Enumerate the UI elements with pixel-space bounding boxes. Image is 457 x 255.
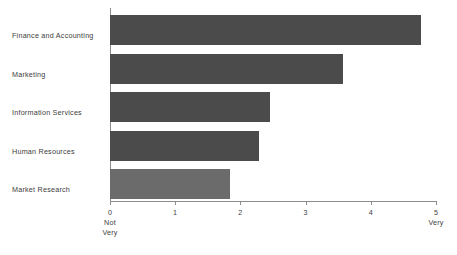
bar-chart: Finance and Accounting Marketing Informa… <box>0 0 457 255</box>
axis-anchor-low-line1: Not <box>104 218 116 227</box>
category-label: Market Research <box>0 185 100 195</box>
x-tick-label: 1 <box>160 208 190 217</box>
bar-finance-and-accounting <box>110 15 421 45</box>
x-tick-label: 3 <box>291 208 321 217</box>
x-tick-mark <box>175 201 176 205</box>
axis-anchor-low: Not Very <box>90 218 130 237</box>
x-tick-mark <box>436 201 437 205</box>
x-tick-label: 4 <box>356 208 386 217</box>
bar-market-research <box>110 169 230 199</box>
x-tick-label: 5 <box>421 208 451 217</box>
axis-anchor-high: Very <box>416 218 456 228</box>
bar-human-resources <box>110 131 259 161</box>
value-axis-line <box>110 201 437 202</box>
category-label: Human Resources <box>0 147 100 157</box>
x-tick-mark <box>110 201 111 205</box>
x-tick-label: 0 <box>95 208 125 217</box>
category-label: Finance and Accounting <box>0 31 100 41</box>
axis-anchor-low-line2: Very <box>102 228 117 237</box>
x-tick-mark <box>240 201 241 205</box>
axis-anchor-high-label: Very <box>428 218 443 227</box>
category-label: Information Services <box>0 108 100 118</box>
x-tick-mark <box>306 201 307 205</box>
bar-marketing <box>110 54 343 84</box>
category-label: Marketing <box>0 70 100 80</box>
x-tick-label: 2 <box>225 208 255 217</box>
bar-information-services <box>110 92 270 122</box>
x-tick-mark <box>371 201 372 205</box>
